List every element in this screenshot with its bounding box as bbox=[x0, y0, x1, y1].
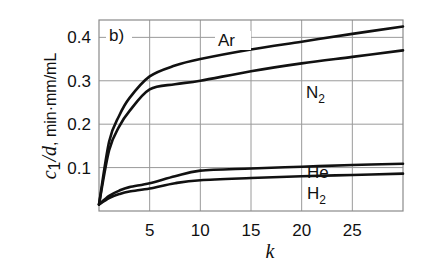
y-tick-label: 0.4 bbox=[67, 28, 91, 47]
series-labels: ArN2HeH2 bbox=[215, 31, 329, 207]
series-label-n2: N2 bbox=[306, 83, 325, 106]
panel-label: b) bbox=[109, 26, 124, 45]
series-label-ar: Ar bbox=[218, 31, 235, 50]
line-chart: 5101520250.10.20.30.4 ArN2HeH2 b) c1/d, … bbox=[0, 0, 422, 274]
y-tick-label: 0.1 bbox=[67, 159, 91, 178]
x-tick-label: 15 bbox=[242, 221, 261, 240]
y-tick-label: 0.3 bbox=[67, 72, 91, 91]
x-tick-label: 20 bbox=[292, 221, 311, 240]
y-axis-label: c1/d, min·mm/mL bbox=[38, 53, 63, 180]
x-tick-label: 25 bbox=[343, 221, 362, 240]
y-tick-label: 0.2 bbox=[67, 115, 91, 134]
series-label-h2: H2 bbox=[307, 184, 326, 207]
series-label-he: He bbox=[307, 163, 329, 182]
x-tick-label: 5 bbox=[145, 221, 154, 240]
x-axis-label: k bbox=[266, 240, 276, 262]
x-tick-label: 10 bbox=[191, 221, 210, 240]
